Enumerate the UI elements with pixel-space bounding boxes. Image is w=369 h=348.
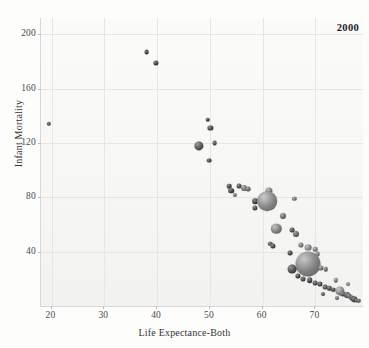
x-tick-mark	[156, 306, 157, 309]
plot-area	[40, 18, 363, 307]
data-point-bubble	[333, 278, 337, 282]
y-tick-label: 40	[26, 246, 36, 256]
y-tick-mark	[38, 252, 41, 253]
data-point-bubble	[280, 213, 286, 219]
data-point-bubble	[208, 125, 213, 130]
x-tick-mark	[209, 306, 210, 309]
x-tick-label: 40	[151, 310, 161, 320]
y-tick-mark	[38, 34, 41, 35]
data-point-bubble	[206, 118, 211, 123]
data-point-bubble	[288, 251, 293, 256]
gridline-horizontal	[41, 34, 363, 35]
data-point-bubble	[293, 231, 299, 237]
data-point-bubble	[313, 247, 318, 252]
x-tick-mark	[103, 306, 104, 309]
data-point-bubble	[299, 242, 304, 247]
x-tick-mark	[51, 306, 52, 309]
data-point-bubble	[144, 50, 149, 55]
data-point-bubble	[295, 251, 320, 276]
x-tick-mark	[262, 306, 263, 309]
x-tick-label: 70	[310, 310, 320, 320]
y-tick-label: 80	[26, 191, 36, 201]
data-point-bubble	[307, 277, 313, 283]
year-annotation: 2000	[337, 22, 359, 33]
y-axis-title: Infant Mortality	[13, 64, 24, 204]
data-point-bubble	[246, 187, 251, 192]
x-tick-mark	[314, 306, 315, 309]
data-point-bubble	[47, 122, 51, 126]
gridline-vertical	[263, 18, 264, 306]
data-point-bubble	[335, 296, 339, 300]
x-tick-label: 60	[257, 310, 267, 320]
data-point-bubble	[305, 244, 312, 251]
data-point-bubble	[252, 206, 257, 211]
y-tick-mark	[38, 197, 41, 198]
data-point-bubble	[292, 196, 296, 200]
data-point-bubble	[212, 141, 217, 146]
gridline-horizontal	[41, 89, 363, 90]
y-tick-mark	[38, 89, 41, 90]
data-point-bubble	[270, 244, 275, 249]
x-tick-label: 50	[204, 310, 214, 320]
data-point-bubble	[318, 265, 323, 270]
data-point-bubble	[288, 265, 297, 274]
x-axis-title: Life Expectance-Both	[0, 327, 369, 338]
data-point-bubble	[346, 282, 350, 286]
y-tick-label: 200	[21, 28, 36, 38]
data-point-bubble	[357, 298, 361, 302]
data-point-bubble	[321, 292, 325, 296]
data-point-bubble	[194, 141, 203, 150]
data-point-bubble	[300, 276, 305, 281]
gridline-vertical	[104, 18, 105, 306]
gridline-vertical	[52, 18, 53, 306]
data-point-bubble	[207, 158, 212, 163]
gridline-horizontal	[41, 197, 363, 198]
data-point-bubble	[233, 193, 237, 197]
x-axis-ticks: 203040506070	[0, 310, 369, 324]
bubble-chart: 4080120160200 203040506070 Life Expectan…	[0, 0, 369, 348]
data-point-bubble	[271, 223, 281, 233]
data-point-bubble	[324, 267, 328, 271]
y-tick-mark	[38, 143, 41, 144]
data-point-bubble	[257, 192, 277, 212]
x-tick-label: 20	[46, 310, 56, 320]
x-tick-label: 30	[98, 310, 108, 320]
